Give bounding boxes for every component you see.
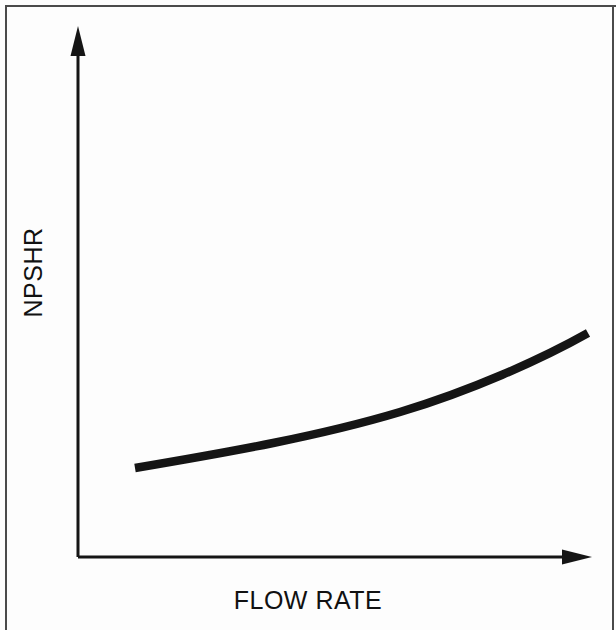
figure-canvas: NPSHR FLOW RATE — [0, 0, 616, 630]
plot-area — [0, 0, 616, 630]
x-axis-label: FLOW RATE — [0, 586, 616, 615]
y-axis-arrow-icon — [71, 26, 86, 56]
npshr-curve — [135, 333, 588, 468]
x-axis-arrow-icon — [562, 550, 592, 565]
y-axis-label: NPSHR — [19, 213, 48, 333]
